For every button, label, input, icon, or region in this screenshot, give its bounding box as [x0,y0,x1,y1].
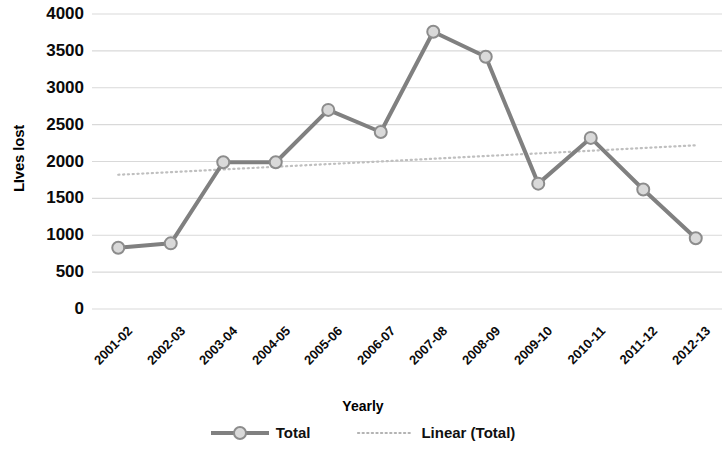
series-markers-total [112,26,702,254]
data-point-marker [270,156,282,168]
series-line-total [118,32,696,248]
data-point-marker [217,156,229,168]
plot-area [92,14,722,309]
gridlines [92,14,722,309]
chart-legend: Total Linear (Total) [0,424,726,441]
y-axis-tick-labels: 40003500300025002000150010005000 [22,0,84,320]
series-path [118,32,696,248]
y-axis-tick-label: 0 [28,300,84,317]
x-axis-tick-labels: 2001-022002-032003-042004-052005-062006-… [92,309,722,399]
y-axis-tick-label: 4000 [28,5,84,22]
legend-label-total: Total [276,424,311,441]
y-axis-tick-label: 500 [28,263,84,280]
legend-item-linear-total: Linear (Total) [356,424,515,441]
legend-item-total: Total [211,424,311,441]
data-point-marker [112,242,124,254]
data-point-marker [532,178,544,190]
line-chart: LIves lost 40003500300025002000150010005… [0,0,726,455]
data-point-marker [585,132,597,144]
trendline-linear-total [118,145,696,175]
y-axis-tick-label: 2000 [28,153,84,170]
x-axis-title: Yearly [0,398,726,414]
y-axis-tick-label: 3500 [28,42,84,59]
y-axis-tick-label: 3000 [28,79,84,96]
legend-label-linear-total: Linear (Total) [421,424,515,441]
data-point-marker [165,237,177,249]
plot-svg [92,14,722,309]
y-axis-tick-label: 1000 [28,226,84,243]
data-point-marker [480,51,492,63]
data-point-marker [637,184,649,196]
y-axis-tick-label: 2500 [28,116,84,133]
data-point-marker [375,126,387,138]
trendline-path [118,145,696,175]
y-axis-tick-label: 1500 [28,189,84,206]
data-point-marker [690,232,702,244]
legend-swatch-line-marker [211,425,269,441]
data-point-marker [322,104,334,116]
legend-swatch-dotted [356,425,414,441]
data-point-marker [427,26,439,38]
